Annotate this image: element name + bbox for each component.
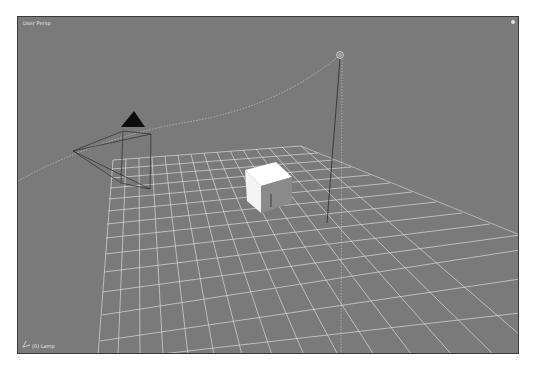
viewport-corner-widget[interactable] xyxy=(511,20,515,24)
scene-canvas[interactable] xyxy=(18,17,519,354)
active-object-label: (0) Lamp xyxy=(32,343,55,349)
view-mode-label: User Persp xyxy=(23,20,51,26)
grid-plane xyxy=(98,146,519,354)
lamp-object xyxy=(327,52,343,354)
camera-up-triangle xyxy=(121,111,145,127)
axis-gizmo-icon xyxy=(21,339,31,349)
3d-viewport[interactable]: User Persp (0) Lamp xyxy=(17,16,519,354)
